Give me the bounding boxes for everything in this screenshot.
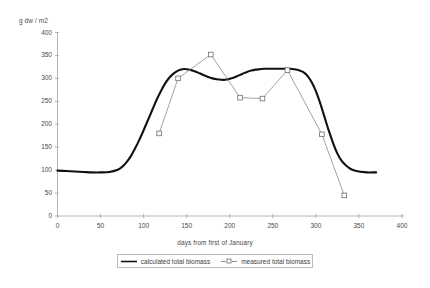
data-point-marker: [238, 95, 243, 100]
y-tick-label: 400: [24, 29, 52, 36]
legend-line-square-icon: [220, 257, 238, 265]
x-tick-label: 50: [87, 222, 115, 229]
x-tick-label: 0: [44, 222, 72, 229]
legend-line-icon: [120, 257, 138, 265]
y-tick-label: 0: [24, 212, 52, 219]
legend-entry-measured: measured total biomass: [220, 257, 310, 265]
x-tick-label: 250: [259, 222, 287, 229]
data-point-marker: [320, 132, 325, 137]
y-tick-label: 150: [24, 143, 52, 150]
series-calculated-total-biomass: [58, 69, 377, 173]
legend-entry-calculated: calculated total biomass: [120, 257, 210, 265]
legend-label-calculated: calculated total biomass: [141, 258, 210, 265]
x-tick-label: 400: [388, 222, 416, 229]
data-point-marker: [209, 52, 214, 57]
y-tick-label: 350: [24, 51, 52, 58]
y-tick-label: 100: [24, 166, 52, 173]
x-tick-label: 350: [345, 222, 373, 229]
y-tick-label: 50: [24, 189, 52, 196]
data-point-marker: [260, 96, 265, 101]
x-tick-label: 150: [173, 222, 201, 229]
x-tick-label: 200: [216, 222, 244, 229]
chart-legend: calculated total biomass measured total …: [117, 254, 313, 268]
legend-label-measured: measured total biomass: [241, 258, 310, 265]
y-tick-label: 300: [24, 74, 52, 81]
y-tick-label: 200: [24, 120, 52, 127]
x-axis-title: days from first of January: [0, 239, 430, 246]
measured-data-markers: [157, 52, 347, 197]
data-point-marker: [176, 76, 181, 81]
x-tick-label: 100: [130, 222, 158, 229]
data-point-marker: [157, 131, 162, 136]
data-point-marker: [342, 193, 347, 198]
data-point-marker: [285, 68, 290, 73]
chart-container: g dw / m2 050100150200250300350400 05010…: [0, 0, 430, 288]
x-tick-label: 300: [302, 222, 330, 229]
y-tick-label: 250: [24, 97, 52, 104]
series-measured-total-biomass: [159, 55, 344, 196]
